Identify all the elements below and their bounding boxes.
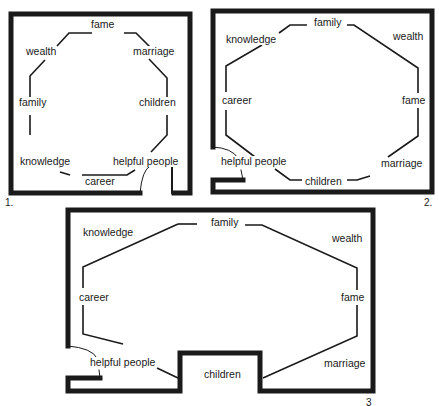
fig2-label-wealth: wealth <box>392 31 424 42</box>
fig2-label-marriage: marriage <box>380 158 423 169</box>
fig2-label-fame: fame <box>401 95 426 106</box>
figure-2-number: 2. <box>424 198 432 208</box>
fig3-label-knowledge: knowledge <box>82 227 134 238</box>
fig3-label-helpful-people: helpful people <box>89 357 156 368</box>
fig1-label-fame: fame <box>90 19 115 30</box>
fig3-label-fame: fame <box>340 292 365 303</box>
fig3-label-wealth: wealth <box>331 233 363 244</box>
fig2-label-family: family <box>313 17 342 28</box>
fig1-label-marriage: marriage <box>132 46 175 57</box>
fig3-label-family: family <box>210 217 239 228</box>
fig2-label-children: children <box>304 176 343 187</box>
fig2-label-knowledge: knowledge <box>225 34 277 45</box>
fig2-label-career: career <box>221 95 253 106</box>
figure-1-number: 1. <box>5 198 13 208</box>
fig1-label-children: children <box>138 97 177 108</box>
fig3-label-career: career <box>78 292 110 303</box>
fig3-label-marriage: marriage <box>323 358 366 369</box>
fig1-label-wealth: wealth <box>25 46 57 57</box>
bagua-diagrams <box>0 0 439 406</box>
fig1-label-family: family <box>18 97 47 108</box>
fig1-label-knowledge: knowledge <box>19 156 71 167</box>
fig1-label-helpful-people: helpful people <box>112 156 179 167</box>
fig3-label-children: children <box>203 369 242 380</box>
fig2-label-helpful-people: helpful people <box>220 156 287 167</box>
figure-3-number: 3 <box>366 398 372 406</box>
fig1-label-career: career <box>84 176 116 187</box>
